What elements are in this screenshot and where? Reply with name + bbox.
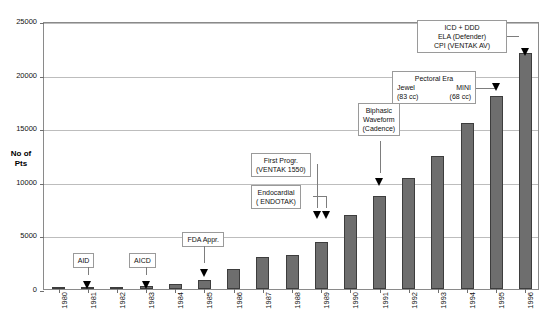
annotation-leader <box>204 246 205 263</box>
annotation-arrow <box>83 281 91 289</box>
annotation-pectoral-era: Pectoral EraJewelMINI(83 cc)(68 cc) <box>392 71 476 104</box>
annotation-aicd: AICD <box>129 253 156 268</box>
x-tick-label-1985: 1985 <box>206 292 214 309</box>
bar-1987 <box>256 257 269 289</box>
annotation-aid: AID <box>73 253 95 268</box>
bar-1994 <box>461 123 474 289</box>
annotation-endocardial: Endocardial( ENDOTAK) <box>251 185 301 209</box>
x-tick-label-1984: 1984 <box>177 292 185 309</box>
x-tick-label-1990: 1990 <box>352 292 360 309</box>
bar-1990 <box>344 215 357 289</box>
bar-1985 <box>198 280 211 289</box>
x-tick-label-1987: 1987 <box>265 292 273 309</box>
x-tick-label-1988: 1988 <box>294 292 302 309</box>
annotation-leader <box>146 267 147 275</box>
annotation-leader <box>507 36 519 37</box>
x-tick-label-1991: 1991 <box>382 292 390 309</box>
y-tick-mark-5000 <box>40 237 44 238</box>
y-tick-mark-10000 <box>40 184 44 185</box>
y-tick-label-15000: 15000 <box>16 125 37 133</box>
y-tick-label-25000: 25000 <box>16 18 37 26</box>
annotation-leader <box>380 141 381 173</box>
x-tick-label-1995: 1995 <box>498 292 506 309</box>
x-tick-label-1980: 1980 <box>61 292 69 309</box>
annotation-fda-approval: FDA Appr. <box>182 232 224 247</box>
annotation-arrow <box>200 269 208 277</box>
y-tick-mark-15000 <box>40 130 44 131</box>
x-tick-label-1993: 1993 <box>440 292 448 309</box>
annotation-leader <box>317 164 318 208</box>
annotation-biphasic-waveform: BiphasicWaveform(Cadence) <box>358 103 401 136</box>
plot-area: AIDAICDFDA Appr.First Progr.(VENTAK 1550… <box>43 22 539 290</box>
x-tick-label-1982: 1982 <box>119 292 127 309</box>
x-tick-label-1994: 1994 <box>469 292 477 309</box>
x-axis: 1980198119821983198419851986198719881989… <box>43 292 539 325</box>
bar-1988 <box>286 255 299 289</box>
bar-1996 <box>519 53 532 289</box>
y-tick-label-10000: 10000 <box>16 179 37 187</box>
chart-figure: 0500010000150002000025000 No ofPts AIDAI… <box>0 0 552 325</box>
annotation-arrow <box>492 83 500 91</box>
y-tick-label-5000: 5000 <box>20 232 37 240</box>
annotation-arrow <box>521 48 529 56</box>
annotation-arrow <box>142 281 150 289</box>
bar-1991 <box>373 196 386 289</box>
x-tick-label-1983: 1983 <box>148 292 156 309</box>
annotation-first-programmable: First Progr.(VENTAK 1550) <box>251 153 311 177</box>
bar-1989 <box>315 242 328 289</box>
annotation-arrow <box>322 211 330 219</box>
y-axis-title: No ofPts <box>3 149 39 169</box>
x-tick-label-1981: 1981 <box>90 292 98 309</box>
bar-1986 <box>227 269 240 289</box>
bar-1995 <box>490 96 503 289</box>
annotation-leader <box>326 196 327 208</box>
x-tick-label-1992: 1992 <box>411 292 419 309</box>
y-tick-mark-20000 <box>40 77 44 78</box>
x-tick-label-1986: 1986 <box>236 292 244 309</box>
x-tick-label-1989: 1989 <box>323 292 331 309</box>
bar-1992 <box>402 178 415 289</box>
annotation-leader <box>313 196 326 197</box>
y-tick-label-20000: 20000 <box>16 72 37 80</box>
x-tick-label-1996: 1996 <box>527 292 535 309</box>
y-tick-label-0: 0 <box>33 286 37 294</box>
annotation-icd-ddd: ICD + DDDELA (Defender)CPI (VENTAK AV) <box>417 20 507 53</box>
y-tick-mark-25000 <box>40 23 44 24</box>
annotation-arrow <box>375 178 383 186</box>
bar-1993 <box>431 156 444 289</box>
annotation-leader <box>88 267 89 275</box>
annotation-arrow <box>313 211 321 219</box>
